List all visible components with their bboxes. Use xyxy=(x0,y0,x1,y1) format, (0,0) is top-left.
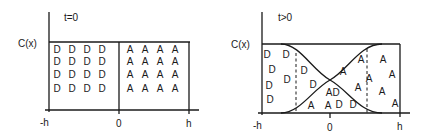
particle-a: A xyxy=(340,66,347,77)
particle-d: D xyxy=(265,80,272,91)
particle-d: D xyxy=(68,69,75,80)
particle-a: A xyxy=(142,83,149,94)
time-label: t=0 xyxy=(64,12,79,23)
y-axis-label: C(x) xyxy=(231,39,250,50)
particle-grid: DDDDDDDDDDDDDDDDAAAAAAAAAAAAAAAA xyxy=(53,44,178,94)
panel-t-positive: t>0 C(x) -h 0 h DDDDDDDDDDDAAAAAAAAAAA xyxy=(231,12,410,133)
particle-a: A xyxy=(366,73,373,84)
particle-a: A xyxy=(172,56,179,67)
particle-a: A xyxy=(358,54,365,65)
particle-a: A xyxy=(142,69,149,80)
particle-d: D xyxy=(98,83,105,94)
panel-t-zero: t=0 C(x) -h 0 h DDDDDDDDDDDDDDDDAAAAAAAA… xyxy=(18,12,199,129)
particle-d: D xyxy=(309,79,316,90)
particle-d: D xyxy=(98,44,105,55)
x-tick-zero: 0 xyxy=(327,122,333,133)
particle-d: D xyxy=(83,44,90,55)
x-tick-minus-h: -h xyxy=(253,120,262,131)
particle-d: D xyxy=(68,56,75,67)
particle-a: A xyxy=(172,69,179,80)
particle-a: A xyxy=(157,83,164,94)
particle-d: D xyxy=(98,69,105,80)
particle-d: D xyxy=(283,74,290,85)
particle-d: D xyxy=(83,83,90,94)
particle-d: D xyxy=(335,99,342,110)
particle-d: D xyxy=(263,49,270,60)
particle-a: A xyxy=(142,56,149,67)
particle-a: A xyxy=(389,69,396,80)
particle-d: D xyxy=(83,69,90,80)
particle-d: D xyxy=(266,94,273,105)
particle-d: D xyxy=(53,69,60,80)
particle-a: A xyxy=(157,56,164,67)
particle-d: D xyxy=(332,87,339,98)
particle-d: D xyxy=(268,64,275,75)
particle-d: D xyxy=(53,44,60,55)
particle-a: A xyxy=(392,98,399,109)
particle-a: A xyxy=(172,44,179,55)
particle-a: A xyxy=(325,100,332,111)
particle-d: D xyxy=(68,44,75,55)
x-tick-h: h xyxy=(397,121,403,132)
particle-a: A xyxy=(379,86,386,97)
y-axis-label: C(x) xyxy=(18,38,37,49)
time-label: t>0 xyxy=(278,12,293,23)
particle-a: A xyxy=(127,44,134,55)
particle-a: A xyxy=(127,69,134,80)
x-tick-zero: 0 xyxy=(116,118,122,129)
particle-d: D xyxy=(68,83,75,94)
particle-a: A xyxy=(142,44,149,55)
x-tick-minus-h: -h xyxy=(40,117,49,128)
x-tick-h: h xyxy=(186,118,192,129)
particle-a: A xyxy=(157,44,164,55)
particle-a: A xyxy=(127,83,134,94)
particle-a: A xyxy=(380,54,387,65)
particle-a: A xyxy=(127,56,134,67)
diffusion-diagram: t=0 C(x) -h 0 h DDDDDDDDDDDDDDDDAAAAAAAA… xyxy=(0,0,431,139)
particle-a: A xyxy=(326,87,333,98)
particle-d: D xyxy=(98,56,105,67)
particle-d: D xyxy=(282,49,289,60)
particle-d: D xyxy=(53,83,60,94)
particle-d: D xyxy=(300,65,307,76)
particle-a: A xyxy=(157,69,164,80)
particle-d: D xyxy=(83,56,90,67)
particle-d: D xyxy=(349,99,356,110)
particle-a: A xyxy=(355,82,362,93)
particle-d: D xyxy=(53,56,60,67)
particle-a: A xyxy=(308,100,315,111)
particle-a: A xyxy=(172,83,179,94)
